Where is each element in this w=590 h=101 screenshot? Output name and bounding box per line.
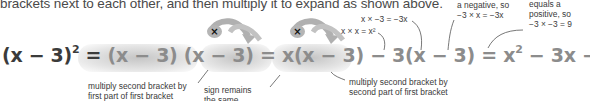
- eq-sign: =: [260, 44, 276, 66]
- eq-term-1: x: [503, 44, 515, 66]
- eq-term-2: − 3x: [529, 44, 576, 66]
- eq-lhs: (x − 3): [2, 44, 72, 66]
- note-positive: equals a positive, so −3 × −3 = 9: [529, 0, 572, 29]
- equation-row: (x − 3)2 = (x − 3) (x − 3) = x(x − 3) − …: [2, 44, 590, 66]
- note-x-times-minus3: x × −3 = −3x: [361, 14, 408, 24]
- eq-step1: (x − 3) (x − 3): [108, 44, 254, 66]
- note-x-times-x: x × x = x²: [341, 26, 375, 36]
- multiply-icon: ×: [290, 25, 305, 38]
- note-second-part: multiply second bracket by second part o…: [349, 77, 448, 97]
- note-first-part: multiply second bracket by first part of…: [88, 81, 187, 101]
- eq-lhs-power: 2: [72, 43, 79, 56]
- eq-term-3: − 3x: [582, 44, 590, 66]
- eq-step2-bracket1: (x − 3): [294, 44, 364, 66]
- eq-step2-x: x: [282, 44, 294, 66]
- eq-step2-bracket2: (x − 3): [405, 44, 475, 66]
- eq-term-1-power: 2: [515, 43, 522, 56]
- multiply-icon: ×: [207, 25, 222, 38]
- eq-sign: =: [481, 44, 497, 66]
- eq-sign: =: [86, 44, 102, 66]
- note-sign-remains: sign remains the same: [204, 85, 251, 101]
- eq-step2-minus3: − 3: [370, 44, 405, 66]
- note-negative: a negative, so −3 × x = −3x: [457, 0, 509, 20]
